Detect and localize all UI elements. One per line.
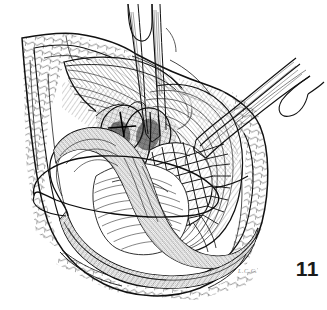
- figure-number: 11: [296, 258, 319, 279]
- artist-signature: L.C.C.: [238, 268, 257, 274]
- surgical-illustration: [0, 0, 327, 310]
- surgical-figure: 11 L.C.C.: [0, 0, 327, 310]
